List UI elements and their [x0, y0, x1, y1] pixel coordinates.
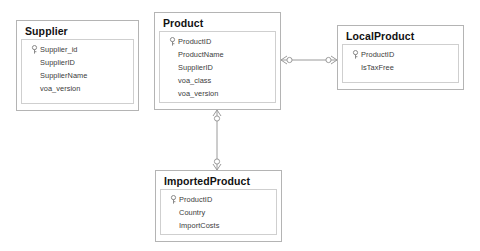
attribute-name: ProductID	[361, 48, 394, 61]
attribute-name: voa_class	[178, 74, 211, 87]
entity-localproduct[interactable]: LocalProduct ProductID IsTaxFree	[337, 25, 464, 90]
attribute-name: Country	[179, 206, 205, 219]
primary-key-icon	[166, 36, 178, 47]
attribute-name: ProductName	[178, 48, 224, 61]
entity-product-attributes: ProductID ProductName SupplierID voa_cla…	[159, 31, 276, 103]
attribute-name: SupplierName	[40, 69, 87, 82]
attribute-name: IsTaxFree	[361, 61, 394, 74]
key-spacer	[167, 207, 179, 218]
primary-key-icon	[349, 49, 361, 60]
attribute-row[interactable]: voa_version	[162, 87, 273, 100]
attribute-row[interactable]: ProductName	[162, 48, 273, 61]
attribute-row[interactable]: ProductID	[163, 193, 274, 206]
attribute-name: voa_version	[40, 82, 80, 95]
entity-localproduct-attributes: ProductID IsTaxFree	[342, 44, 459, 83]
entity-supplier[interactable]: Supplier Supplier_id SupplierID Supp	[16, 20, 139, 111]
attribute-name: voa_version	[178, 87, 218, 100]
attribute-row[interactable]: ImportCosts	[163, 219, 274, 232]
attribute-row[interactable]: Country	[163, 206, 274, 219]
attribute-name: ImportCosts	[179, 219, 219, 232]
attribute-row[interactable]: IsTaxFree	[345, 61, 456, 74]
relationship-product-localproduct[interactable]	[281, 56, 337, 64]
attribute-row[interactable]: ProductID	[345, 48, 456, 61]
key-spacer	[166, 62, 178, 73]
key-spacer	[28, 70, 40, 81]
attribute-name: ProductID	[178, 35, 211, 48]
entity-product[interactable]: Product ProductID ProductName Suppli	[154, 12, 281, 110]
attribute-row[interactable]: SupplierName	[24, 69, 131, 82]
entity-importedproduct-attributes: ProductID Country ImportCosts	[160, 189, 277, 235]
attribute-name: ProductID	[179, 193, 212, 206]
key-spacer	[28, 57, 40, 68]
attribute-name: SupplierID	[40, 56, 75, 69]
key-spacer	[166, 49, 178, 60]
attribute-name: Supplier_id	[40, 43, 78, 56]
entity-supplier-attributes: Supplier_id SupplierID SupplierName voa_…	[21, 39, 134, 104]
entity-localproduct-title: LocalProduct	[342, 29, 459, 44]
attribute-row[interactable]: Supplier_id	[24, 43, 131, 56]
entity-importedproduct[interactable]: ImportedProduct ProductID Country Im	[155, 170, 282, 242]
key-spacer	[166, 88, 178, 99]
diagram-canvas: Supplier Supplier_id SupplierID Supp	[0, 0, 480, 251]
entity-supplier-title: Supplier	[21, 24, 134, 39]
key-spacer	[167, 220, 179, 231]
attribute-row[interactable]: ProductID	[162, 35, 273, 48]
attribute-row[interactable]: SupplierID	[24, 56, 131, 69]
attribute-row[interactable]: SupplierID	[162, 61, 273, 74]
relationship-product-importedproduct[interactable]	[213, 110, 221, 170]
entity-product-title: Product	[159, 16, 276, 31]
entity-importedproduct-title: ImportedProduct	[160, 174, 277, 189]
attribute-row[interactable]: voa_version	[24, 82, 131, 95]
key-spacer	[166, 75, 178, 86]
attribute-name: SupplierID	[178, 61, 213, 74]
key-spacer	[349, 62, 361, 73]
primary-key-icon	[167, 194, 179, 205]
attribute-row[interactable]: voa_class	[162, 74, 273, 87]
primary-key-icon	[28, 44, 40, 55]
key-spacer	[28, 83, 40, 94]
